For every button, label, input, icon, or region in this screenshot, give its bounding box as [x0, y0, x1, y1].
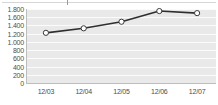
x-tick-label: 12/06	[151, 88, 168, 96]
data-point-marker[interactable]	[119, 19, 124, 24]
data-point-marker[interactable]	[43, 30, 48, 35]
y-tick-label: 1.000	[7, 38, 24, 45]
y-tick-label: 1.200	[7, 30, 24, 37]
series-line-group	[27, 9, 216, 83]
data-point-marker[interactable]	[195, 11, 200, 16]
x-tick-label: 12/07	[189, 88, 206, 96]
y-tick-label: 1.400	[7, 22, 24, 29]
data-point-marker[interactable]	[81, 26, 86, 31]
y-tick-label: 800	[13, 47, 24, 54]
y-tick-label: 600	[13, 55, 24, 62]
y-axis-tick-labels: 02004006008001.0001.2001.4001.6001.800	[0, 9, 24, 83]
y-tick-label: 400	[13, 63, 24, 70]
x-axis-tick-labels: 12/0312/0412/0512/0612/07	[27, 88, 216, 100]
y-tick-label: 1.800	[7, 6, 24, 13]
x-tick-label: 12/03	[38, 88, 55, 96]
x-tick-label: 12/04	[75, 88, 92, 96]
y-tick-label: 0	[20, 80, 24, 87]
x-axis-line	[27, 83, 216, 84]
x-tick-label: 12/05	[113, 88, 130, 96]
cropped-top-artifact	[0, 0, 218, 6]
y-tick-label: 1.600	[7, 14, 24, 21]
top-divider-line	[2, 2, 216, 3]
y-tick-label: 200	[13, 71, 24, 78]
data-point-marker[interactable]	[157, 8, 162, 13]
top-tick-mark	[67, 0, 68, 5]
plot-area	[27, 9, 216, 83]
y-axis-line	[26, 9, 27, 84]
line-chart-widget: 02004006008001.0001.2001.4001.6001.800 1…	[0, 0, 218, 105]
